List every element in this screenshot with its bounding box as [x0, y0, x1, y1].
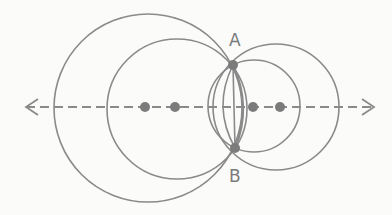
center-dot	[170, 102, 180, 112]
point-a-dot	[228, 60, 238, 70]
radical-axis-line	[233, 65, 235, 148]
dashed-axis	[26, 99, 374, 115]
point-b-dot	[230, 143, 240, 153]
center-dot	[275, 102, 285, 112]
label-b: B	[229, 166, 241, 186]
center-dot	[140, 102, 150, 112]
coaxal-circles-diagram: A B	[0, 0, 392, 215]
center-dot	[248, 102, 258, 112]
label-a: A	[229, 30, 241, 50]
diagram-canvas: A B	[0, 0, 392, 215]
